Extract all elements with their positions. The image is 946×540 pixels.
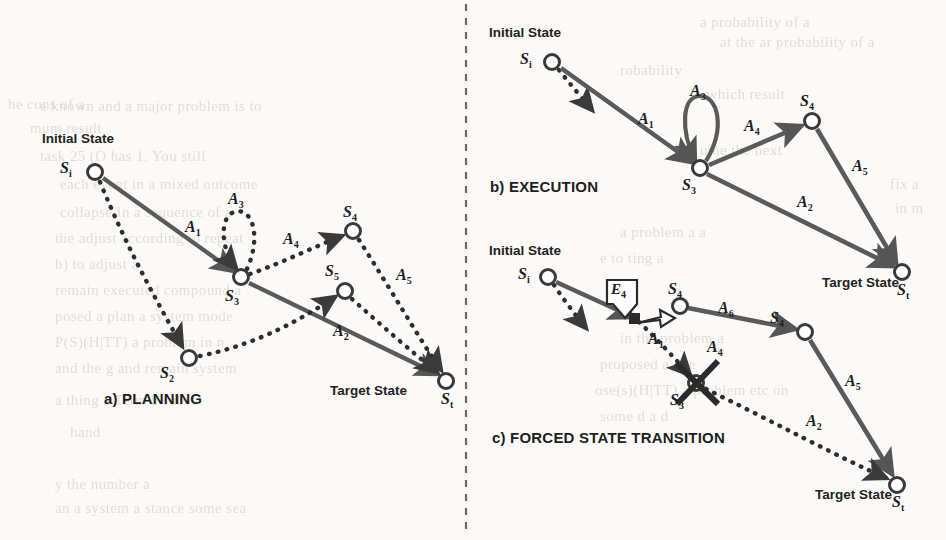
figure-stage: a probability of ahe cons of aat the ar … <box>0 0 946 540</box>
node-a-St <box>439 374 454 389</box>
edge-a-A3-selfloop <box>224 211 255 269</box>
edge-a-S5-St <box>352 299 437 372</box>
node-a-S4 <box>346 224 361 239</box>
edge-b-A3-selfloop <box>685 96 718 161</box>
panel-c-forced-state-transition <box>541 270 905 493</box>
node-b-Si <box>545 55 560 70</box>
edge-b-A1 <box>561 68 692 162</box>
edge-a-A5 <box>359 240 441 370</box>
edge-b-A5 <box>817 129 896 263</box>
node-b-S3 <box>693 161 708 176</box>
node-c-Si <box>541 270 556 285</box>
node-c-S4b <box>798 325 813 340</box>
edge-c-A2 <box>706 389 886 478</box>
node-a-S5 <box>338 284 353 299</box>
node-b-St <box>895 265 910 280</box>
edge-b-A4 <box>709 126 801 165</box>
node-c-forced-junction <box>629 313 640 324</box>
node-a-Si <box>88 165 103 180</box>
node-a-S3 <box>234 270 249 285</box>
node-b-S4 <box>805 114 820 129</box>
edge-a-A1 <box>103 178 233 271</box>
edge-c-A6-A4 <box>688 308 795 329</box>
node-c-S4a <box>673 299 688 314</box>
panel-a-planning <box>88 165 454 389</box>
node-a-S2 <box>182 351 197 366</box>
node-c-St <box>890 478 905 493</box>
panel-b-execution <box>545 55 910 280</box>
edge-b-A2 <box>707 174 893 266</box>
figure-canvas <box>0 0 946 540</box>
edge-a-S2-S5 <box>200 297 335 356</box>
node-c-S3-blocked <box>676 361 718 404</box>
edge-a-A4 <box>250 236 342 274</box>
event-callout-E4 <box>607 280 637 318</box>
edge-c-forced-hollow-arrow <box>637 310 675 327</box>
edge-c-A5 <box>810 340 892 474</box>
